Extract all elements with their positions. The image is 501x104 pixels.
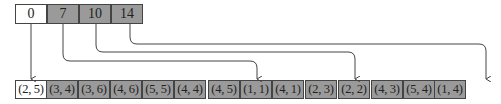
arrow-offset-2 [96, 24, 355, 79]
pointer-arrows [0, 0, 501, 104]
